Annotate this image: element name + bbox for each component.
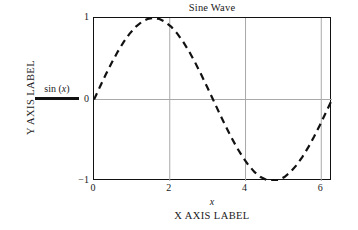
- x-tick-label: 4: [235, 182, 255, 194]
- x-tick-labels: 0 2 4 6: [93, 182, 331, 196]
- plot-canvas: [94, 18, 332, 181]
- x-tick-label: 2: [159, 182, 179, 194]
- page-title: Sine Wave: [93, 1, 331, 14]
- x-tick-label: 6: [310, 182, 330, 194]
- legend-entry-label: sin (x): [33, 83, 81, 95]
- legend-label-prefix: sin (: [44, 83, 62, 94]
- legend: sin (x): [33, 83, 81, 100]
- y-tick-label: 1: [67, 12, 89, 22]
- legend-line-sample: [35, 97, 79, 100]
- plot-area: [93, 17, 331, 180]
- x-axis-variable: x: [93, 196, 331, 207]
- legend-label-suffix: ): [66, 83, 69, 94]
- sine-wave-figure: Sine Wave 1 0 −1 0 2 4 6 x X AXIS LABEL …: [0, 0, 358, 230]
- x-axis-label: X AXIS LABEL: [93, 210, 331, 221]
- x-tick-label: 0: [83, 182, 103, 194]
